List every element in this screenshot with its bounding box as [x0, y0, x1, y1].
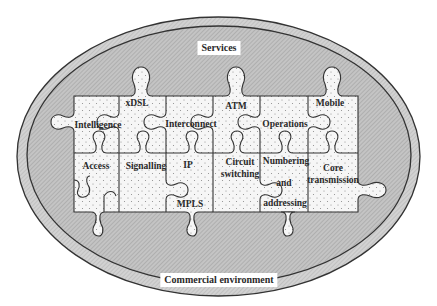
piece-mobile: Mobile	[316, 98, 345, 109]
piece-circuit: Circuit	[226, 157, 255, 168]
piece-atm: ATM	[225, 101, 246, 112]
puzzle-diagram: Services Commercial environment Intellig…	[0, 0, 437, 306]
piece-and: and	[276, 178, 291, 189]
piece-signalling: Signalling	[126, 161, 167, 172]
piece-ip: IP	[183, 160, 193, 171]
piece-switching: switching	[221, 169, 260, 180]
piece-addressing: addressing	[263, 198, 307, 209]
piece-operations: Operations	[262, 119, 307, 130]
piece-interconnect: Interconnect	[165, 119, 217, 130]
piece-numbering: Numbering	[263, 156, 309, 167]
piece-transmission: transmission	[307, 175, 359, 186]
piece-intelligence: Intelligence	[75, 120, 122, 131]
commercial-environment-label: Commercial environment	[160, 273, 277, 287]
piece-core: Core	[323, 163, 343, 174]
piece-access: Access	[83, 161, 110, 172]
piece-mpls: MPLS	[177, 199, 203, 210]
services-label: Services	[198, 41, 241, 55]
piece-xdsl: xDSL	[125, 98, 148, 109]
